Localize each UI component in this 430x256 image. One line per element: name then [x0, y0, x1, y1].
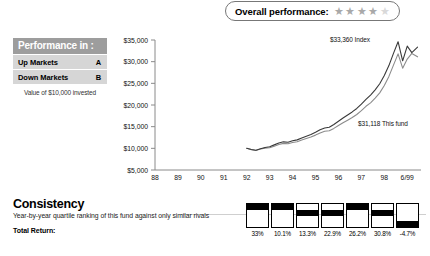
quartile-cell: 13.3%	[296, 203, 319, 237]
x-tick-label: 97	[358, 174, 366, 181]
consistency-subtitle: Year-by-year quartile ranking of this fu…	[13, 211, 228, 221]
x-tick-label: 6/99	[401, 174, 414, 181]
x-tick-label: 98	[381, 174, 389, 181]
y-tick-label: $20,000	[123, 102, 148, 109]
quartile-box	[296, 203, 319, 228]
quartile-cell: 22.9%	[321, 203, 344, 237]
total-return-label: Total Return:	[13, 221, 228, 234]
performance-table-note: Value of $10,000 invested	[13, 86, 107, 96]
quartile-cell: 26.2%	[346, 203, 369, 237]
performance-table-header: Performance in :	[13, 38, 107, 54]
series-line	[247, 53, 418, 150]
x-tick-label: 96	[335, 174, 343, 181]
quartile-ranking-row: 33%10.1%13.3%22.9%26.2%30.8%-4.7%	[246, 203, 419, 237]
table-row-up-markets: Up Markets A	[13, 54, 107, 69]
quartile-cell: 30.8%	[371, 203, 394, 237]
quartile-band-4	[247, 221, 268, 227]
quartile-value: -4.7%	[396, 228, 419, 237]
quartile-box	[371, 203, 394, 228]
quartile-box	[321, 203, 344, 228]
star-5-icon: ★	[380, 6, 390, 17]
quartile-box	[271, 203, 294, 228]
quartile-box	[246, 203, 269, 228]
overall-performance-badge: Overall performance: ★★★★★	[225, 1, 400, 21]
series-line	[247, 42, 418, 151]
star-4-icon: ★	[368, 6, 378, 17]
x-tick-label: 90	[197, 174, 205, 181]
quartile-band-4	[272, 221, 293, 227]
x-tick-label: 91	[220, 174, 228, 181]
y-tick-label: $5,000	[127, 167, 148, 174]
x-tick-label: 92	[243, 174, 251, 181]
y-tick-label: $15,000	[123, 123, 148, 130]
star-2-icon: ★	[345, 6, 355, 17]
quartile-value: 26.2%	[346, 228, 369, 237]
quartile-band-4	[372, 221, 393, 227]
x-tick-label: 94	[289, 174, 297, 181]
x-tick-label: 93	[266, 174, 274, 181]
quartile-value: 30.8%	[371, 228, 394, 237]
fund-end-label: $31,118 This fund	[358, 120, 408, 127]
quartile-value: 10.1%	[271, 228, 294, 237]
chart-canvas: $5,000$10,000$15,000$20,000$25,000$30,00…	[107, 36, 425, 192]
quartile-band-4	[397, 221, 418, 227]
quartile-band-4	[347, 221, 368, 227]
consistency-title: Consistency	[13, 197, 228, 211]
fund-performance-panel: Overall performance: ★★★★★ Performance i…	[0, 0, 430, 256]
growth-of-10000-chart: $5,000$10,000$15,000$20,000$25,000$30,00…	[107, 36, 425, 192]
quartile-value: 33%	[246, 228, 269, 237]
up-markets-grade: A	[96, 58, 101, 67]
up-markets-label: Up Markets	[18, 58, 58, 67]
star-3-icon: ★	[357, 6, 367, 17]
overall-performance-label: Overall performance:	[235, 6, 329, 17]
quartile-band-4	[297, 221, 318, 227]
star-rating: ★★★★★	[334, 6, 390, 17]
star-1-icon: ★	[334, 6, 344, 17]
quartile-box	[396, 203, 419, 228]
quartile-cell: 33%	[246, 203, 269, 237]
quartile-box	[346, 203, 369, 228]
down-markets-label: Down Markets	[18, 73, 68, 82]
y-tick-label: $25,000	[123, 80, 148, 87]
y-tick-label: $10,000	[123, 145, 148, 152]
performance-in-table: Performance in : Up Markets A Down Marke…	[13, 38, 107, 84]
index-end-label: $33,360 Index	[330, 36, 370, 43]
consistency-section: Consistency Year-by-year quartile rankin…	[13, 197, 228, 234]
quartile-cell: 10.1%	[271, 203, 294, 237]
quartile-cell: -4.7%	[396, 203, 419, 237]
x-tick-label: 88	[151, 174, 159, 181]
y-tick-label: $30,000	[123, 58, 148, 65]
table-row-down-markets: Down Markets B	[13, 69, 107, 84]
down-markets-grade: B	[96, 73, 101, 82]
quartile-value: 13.3%	[296, 228, 319, 237]
quartile-band-4	[322, 221, 343, 227]
x-tick-label: 89	[174, 174, 182, 181]
y-tick-label: $35,000	[123, 37, 148, 44]
x-tick-label: 95	[312, 174, 320, 181]
quartile-value: 22.9%	[321, 228, 344, 237]
